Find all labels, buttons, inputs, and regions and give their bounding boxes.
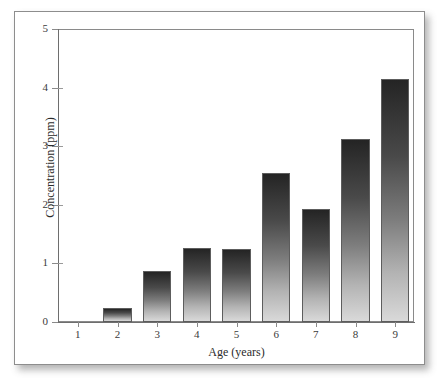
- bar-age-9: [381, 79, 410, 322]
- bar-age-7: [302, 209, 331, 322]
- y-tick-0: 0: [52, 322, 58, 323]
- x-tick-3: [157, 322, 158, 327]
- x-tick-8: [356, 322, 357, 327]
- x-tick-7: [316, 322, 317, 327]
- y-tick-5: 5: [52, 29, 58, 30]
- bar-age-2: [103, 308, 132, 322]
- x-tick-5: [237, 322, 238, 327]
- x-tick-label: 4: [185, 328, 209, 340]
- x-tick-6: [276, 322, 277, 327]
- chart-plot-area: 012345 123456789 Age (years) Concentrati…: [15, 12, 426, 366]
- x-tick-4: [197, 322, 198, 327]
- x-tick-label: 3: [145, 328, 169, 340]
- x-tick-label: 7: [304, 328, 328, 340]
- bar-age-5: [222, 249, 251, 322]
- y-tick-label: 0: [43, 314, 49, 329]
- y-tick-mark: [58, 88, 63, 89]
- y-tick-mark: [58, 205, 63, 206]
- y-axis-title: Concentration (ppm): [43, 68, 58, 268]
- x-tick-9: [395, 322, 396, 327]
- x-axis-title: Age (years): [58, 345, 415, 360]
- y-axis-line: [58, 29, 59, 323]
- y-tick-mark: [58, 263, 63, 264]
- bar-age-4: [183, 248, 212, 322]
- figure-card: 012345 123456789 Age (years) Concentrati…: [14, 11, 425, 365]
- x-tick-label: 2: [106, 328, 130, 340]
- bar-age-6: [262, 173, 291, 322]
- x-tick-label: 1: [66, 328, 90, 340]
- x-tick-1: [78, 322, 79, 327]
- y-tick-mark: [58, 146, 63, 147]
- x-tick-2: [118, 322, 119, 327]
- x-tick-label: 6: [264, 328, 288, 340]
- y-tick-label: 5: [43, 21, 49, 36]
- x-tick-label: 9: [383, 328, 407, 340]
- bar-age-3: [143, 271, 172, 322]
- bar-age-8: [341, 139, 370, 322]
- x-tick-label: 5: [225, 328, 249, 340]
- x-tick-label: 8: [344, 328, 368, 340]
